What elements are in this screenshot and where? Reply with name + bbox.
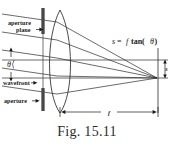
focal-length-label: f (108, 109, 111, 116)
equation-lhs: s (112, 37, 115, 46)
optics-ray-diagram: s f s = f tan( θ ) θ aperture plane (0, 0, 174, 120)
refracted-ray-1 (57, 22, 157, 78)
incoming-ray-2 (2, 32, 57, 40)
equation-tan: tan( (131, 37, 145, 46)
wavefront-label: wavefront (3, 79, 31, 86)
incoming-ray-3 (2, 50, 57, 58)
refracted-ray-bundle-upper (57, 22, 157, 94)
aperture-plane-label-line1: aperture (8, 19, 31, 26)
wavefront-leader (31, 81, 37, 85)
incoming-ray-5 (2, 86, 57, 94)
incoming-ray-4 (2, 68, 57, 76)
theta-angle-arc (13, 60, 14, 69)
equation-theta: θ (150, 37, 154, 46)
aperture-plane-label-line2: plane (16, 26, 31, 33)
aperture-leader (32, 99, 40, 103)
equation-group: s = f tan( θ ) (112, 37, 158, 46)
image-height-label: s (164, 65, 168, 72)
lens-outline (50, 10, 71, 113)
equation-equals: = (117, 37, 122, 46)
aperture-label: aperture (4, 97, 27, 104)
refracted-ray-5 (57, 78, 157, 94)
equation-f: f (126, 37, 130, 46)
equation-paren-close: ) (155, 37, 158, 46)
figure-container: s f s = f tan( θ ) θ aperture plane (0, 0, 174, 150)
theta-label: θ (7, 60, 11, 69)
refracted-ray-3 (57, 58, 157, 78)
figure-caption: Fig. 15.11 (0, 124, 174, 140)
